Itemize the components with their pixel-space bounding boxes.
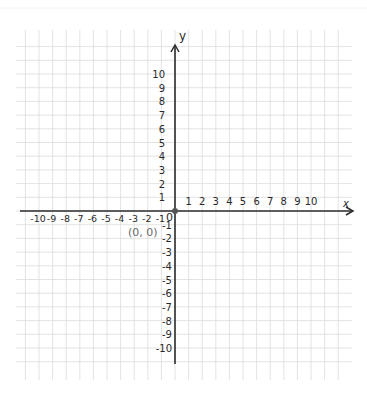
y-tick-label: 7 — [159, 110, 165, 121]
y-tick-labels-negative: -1-2-3-4-5-6-7-8-9-10 — [156, 220, 172, 354]
y-tick-label: -5 — [162, 275, 172, 286]
y-tick-labels-positive: 12345678910 — [152, 69, 165, 203]
x-tick-label: -5 — [101, 213, 110, 224]
grid-lines — [0, 8, 367, 380]
origin-point — [172, 208, 178, 214]
x-tick-labels-negative: -10-9-8-7-6-5-4-3-2-1 — [30, 213, 165, 224]
x-tick-label: 3 — [213, 196, 219, 207]
y-tick-label: 1 — [159, 192, 165, 203]
x-tick-label: -8 — [60, 213, 69, 224]
y-tick-label: 3 — [159, 165, 165, 176]
x-tick-label: -3 — [128, 213, 137, 224]
x-tick-label: 8 — [281, 196, 287, 207]
x-tick-label: -7 — [74, 213, 83, 224]
y-tick-label: -8 — [162, 316, 172, 327]
x-tick-label: -6 — [88, 213, 97, 224]
y-tick-label: -4 — [162, 261, 172, 272]
y-tick-label: -3 — [162, 247, 172, 258]
y-tick-label: 8 — [159, 96, 165, 107]
origin-point-label: (0, 0) — [128, 226, 158, 239]
x-tick-label: 6 — [253, 196, 259, 207]
x-tick-label: -9 — [47, 213, 56, 224]
y-tick-label: 2 — [159, 179, 165, 190]
y-tick-label: 9 — [159, 83, 165, 94]
y-tick-label: 4 — [159, 151, 165, 162]
y-tick-label: -2 — [162, 233, 172, 244]
x-axis-label: x — [342, 198, 349, 209]
origin-tick-label: 0 — [166, 211, 173, 224]
y-tick-label: -9 — [162, 329, 172, 340]
x-tick-label: 9 — [294, 196, 300, 207]
x-tick-label: 2 — [199, 196, 205, 207]
coordinate-plane: x y 12345678910 -10-9-8-7-6-5-4-3-2-1 12… — [0, 0, 367, 397]
y-tick-label: -10 — [156, 343, 172, 354]
y-axis-label: y — [179, 29, 186, 43]
x-tick-label: 1 — [185, 196, 191, 207]
y-tick-label: 5 — [159, 138, 165, 149]
y-tick-label: -6 — [162, 288, 172, 299]
x-tick-label: 5 — [240, 196, 246, 207]
x-tick-label: -2 — [142, 213, 151, 224]
x-tick-label: 4 — [226, 196, 232, 207]
y-tick-label: 10 — [152, 69, 165, 80]
x-tick-label: -10 — [30, 213, 46, 224]
y-tick-label: -7 — [162, 302, 172, 313]
x-tick-label: -4 — [115, 213, 124, 224]
y-tick-label: 6 — [159, 124, 165, 135]
x-tick-label: 7 — [267, 196, 273, 207]
x-tick-label: 10 — [305, 196, 318, 207]
